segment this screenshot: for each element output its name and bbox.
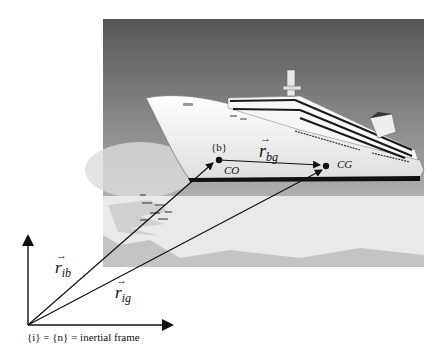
diagram: {b} CO CG → rbg → rib → rig {i} = {n} = … <box>0 0 444 357</box>
ship-scene <box>0 0 444 357</box>
cg-label: CG <box>337 158 352 170</box>
vector-label-r-ib: → rib <box>55 258 71 281</box>
inertial-frame-caption: {i} = {n} = inertial frame <box>27 331 140 343</box>
co-point <box>216 157 222 163</box>
body-frame-label: {b} <box>211 141 227 153</box>
vector-label-r-bg: → rbg <box>259 141 278 165</box>
cg-point <box>323 163 329 169</box>
vector-label-r-ig: → rig <box>115 283 131 306</box>
co-label: CO <box>224 164 239 176</box>
